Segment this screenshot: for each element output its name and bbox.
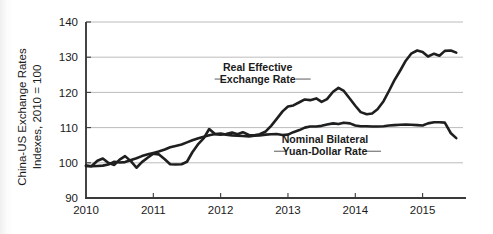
x-axis-tick-labels: 201020112012201320142015 (73, 204, 435, 216)
y-axis-title-line2: Indexes, 2010 = 100 (31, 65, 43, 170)
exchange-rate-line-chart: 90100110120130140 2010201120122013201420… (0, 0, 493, 234)
ytick-label-110: 110 (60, 122, 78, 134)
annotation-reer-line2: Exchange Rate (220, 73, 296, 85)
annotation-nominal-bilateral-yuan-dollar-rate: Nominal Bilateral Yuan-Dollar Rate (282, 133, 369, 157)
y-axis-title-line1: China-US Exchange Rates (16, 48, 28, 186)
ytick-label-140: 140 (59, 16, 78, 28)
y-axis-title: China-US Exchange Rates Indexes, 2010 = … (16, 48, 43, 186)
annotation-nominal-line1: Nominal Bilateral (282, 133, 369, 145)
xtick-label-2014: 2014 (342, 204, 368, 216)
xtick-label-2015: 2015 (410, 204, 436, 216)
xtick-label-2010: 2010 (73, 204, 99, 216)
annotation-nominal-line2: Yuan-Dollar Rate (283, 145, 368, 157)
ytick-label-90: 90 (65, 192, 78, 204)
annotation-reer-line1: Real Effective (223, 61, 293, 73)
series-line-nominal-bilateral-yuan-dollar-rate (86, 122, 456, 166)
annotation-real-effective-exchange-rate: Real Effective Exchange Rate (220, 61, 296, 85)
xtick-label-2012: 2012 (208, 204, 234, 216)
axis-spines (85, 22, 466, 199)
ytick-label-130: 130 (59, 51, 78, 63)
ytick-label-120: 120 (59, 87, 78, 99)
ytick-label-100: 100 (59, 157, 78, 169)
y-axis-tick-labels: 90100110120130140 (59, 16, 78, 204)
gridlines (86, 22, 463, 163)
tickmarks (86, 22, 423, 198)
figure-container: 90100110120130140 2010201120122013201420… (0, 0, 493, 234)
xtick-label-2013: 2013 (275, 204, 301, 216)
xtick-label-2011: 2011 (141, 204, 166, 216)
